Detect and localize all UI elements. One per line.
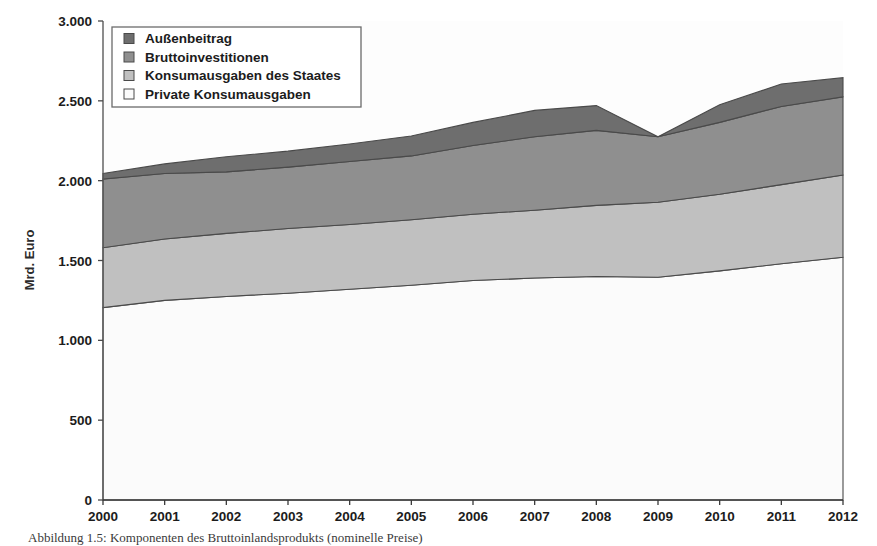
y-tick-label: 2.000 [58, 174, 92, 189]
x-tick-label: 2002 [211, 509, 241, 524]
legend-swatch-0 [124, 34, 134, 44]
x-tick-label: 2012 [828, 509, 858, 524]
x-tick-label: 2011 [767, 509, 797, 524]
legend-swatch-3 [124, 89, 134, 99]
figure-caption: Abbildung 1.5: Komponenten des Bruttoinl… [28, 530, 423, 545]
legend-label-1: Bruttoinvestitionen [145, 50, 269, 65]
legend-label-3: Private Konsumausgaben [145, 87, 311, 102]
x-tick-label: 2004 [335, 509, 366, 524]
y-tick-label: 1.000 [58, 333, 92, 348]
x-tick-label: 2000 [88, 509, 118, 524]
x-tick-label: 2006 [458, 509, 489, 524]
legend-swatch-1 [124, 52, 134, 62]
x-tick-label: 2008 [581, 509, 612, 524]
x-tick-label: 2005 [396, 509, 427, 524]
chart-legend: AußenbeitragBruttoinvestitionenKonsumaus… [112, 27, 361, 107]
legend-label-2: Konsumausgaben des Staates [145, 68, 341, 83]
y-tick-label: 1.500 [58, 254, 92, 269]
y-tick-label: 2.500 [58, 94, 92, 109]
y-axis-title: Mrd. Euro [22, 230, 37, 291]
x-tick-label: 2001 [150, 509, 181, 524]
gdp-components-area-chart: 05001.0001.5002.0002.5003.000 2000200120… [0, 0, 877, 546]
figure-container: 05001.0001.5002.0002.5003.000 2000200120… [0, 0, 877, 546]
x-tick-label: 2007 [520, 509, 550, 524]
x-tick-label: 2003 [273, 509, 304, 524]
legend-label-0: Außenbeitrag [145, 31, 232, 46]
legend-swatch-2 [124, 71, 134, 81]
y-tick-label: 500 [69, 413, 92, 428]
y-tick-label: 0 [84, 493, 92, 508]
y-tick-label: 3.000 [58, 14, 92, 29]
x-tick-label: 2009 [643, 509, 673, 524]
x-tick-label: 2010 [705, 509, 735, 524]
